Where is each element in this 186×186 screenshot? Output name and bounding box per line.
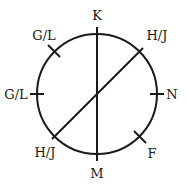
label-left: G/L [4,87,28,102]
label-top-left: G/L [32,28,56,43]
tick-bottom-right [134,131,146,143]
label-top-right: H/J [147,28,168,43]
label-bottom-left: H/J [35,145,56,160]
label-bottom: M [90,166,103,181]
tick-top-left [48,45,60,57]
seating-diagram: K H/J N F M H/J G/L G/L [0,0,186,186]
label-bottom-right: F [147,146,156,161]
label-right: N [166,87,177,102]
label-top: K [92,8,102,23]
